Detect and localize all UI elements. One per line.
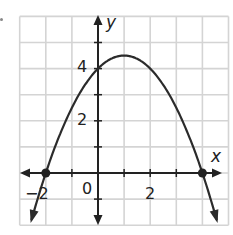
tick-label-x-neg2: −2 — [25, 184, 49, 203]
tick-label-y-4: 4 — [77, 57, 87, 76]
parabola-chart: y x 4 2 0 −2 2 — [0, 0, 233, 235]
x-axis-label: x — [210, 146, 222, 166]
y-axis-label: y — [105, 12, 117, 32]
tick-label-x-2: 2 — [145, 184, 155, 203]
origin-label: 0 — [82, 179, 92, 198]
tick-label-y-2: 2 — [77, 110, 87, 129]
grid — [20, 16, 229, 225]
